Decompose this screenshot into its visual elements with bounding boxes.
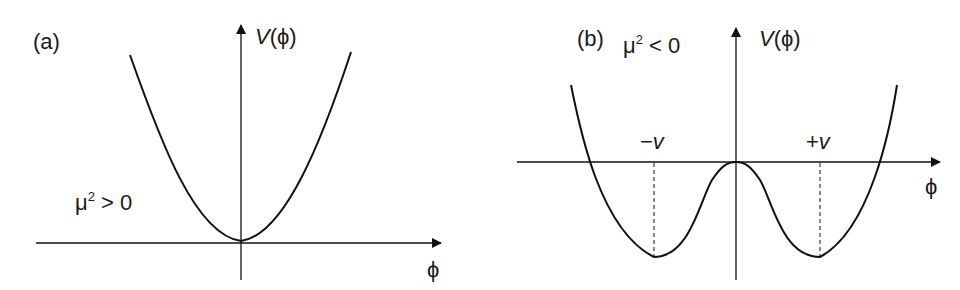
panel-b-condition: μ2 < 0 <box>623 33 680 57</box>
panel-a-y-axis-label-arg: (ϕ) <box>270 24 297 49</box>
panel-b-label: (b) <box>577 28 604 50</box>
panel-b-condition-sup: 2 <box>636 32 643 47</box>
panel-b-x-axis-label: ϕ <box>925 176 937 198</box>
panel-a-condition-sup: 2 <box>88 189 95 204</box>
panel-b-potential-curve <box>571 85 897 257</box>
panel-b-condition-mu: μ <box>623 33 636 58</box>
panel-b-condition-rest: < 0 <box>643 33 680 58</box>
panel-b-min-left-label: −v <box>640 131 664 153</box>
panel-a-plot <box>36 25 441 280</box>
panel-b-y-axis-label-v: V <box>759 26 774 51</box>
panel-a-x-axis-label: ϕ <box>427 259 439 281</box>
panel-a-condition-rest: > 0 <box>95 190 132 215</box>
panel-a-y-axis-label: V(ϕ) <box>255 26 297 48</box>
panel-a-condition: μ2 > 0 <box>75 190 132 214</box>
panel-b-y-axis-label-arg: (ϕ) <box>774 26 801 51</box>
panel-a-label: (a) <box>33 31 60 53</box>
panel-b-plot <box>517 28 940 280</box>
panel-a-y-axis-label-v: V <box>255 24 270 49</box>
panel-a-condition-mu: μ <box>75 190 88 215</box>
panel-b-y-axis-label: V(ϕ) <box>759 28 801 50</box>
panel-b-min-right-label: +v <box>806 131 830 153</box>
